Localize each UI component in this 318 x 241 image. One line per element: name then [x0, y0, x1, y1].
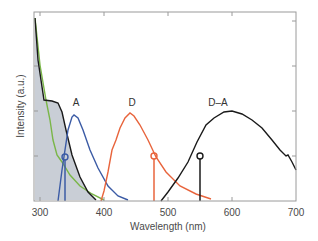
marker-da: [197, 153, 203, 201]
series-d-line: [101, 113, 211, 201]
series-label-da: D–A: [208, 97, 228, 108]
spectra-chart: 300 400 500 600 700 Wavelength (nm) Inte…: [0, 0, 318, 241]
x-axis-title: Wavelength (nm): [130, 221, 206, 232]
series-da-line: [161, 111, 296, 201]
y-axis-title: Intensity (a.u.): [15, 74, 26, 137]
x-tick-label: 500: [160, 207, 177, 218]
marker-d: [151, 153, 157, 201]
series-label-a: A: [73, 97, 80, 108]
y-ticks: [34, 21, 296, 156]
x-tick-label: 700: [288, 207, 305, 218]
series-label-d: D: [128, 97, 135, 108]
x-tick-label: 600: [224, 207, 241, 218]
x-tick-label: 300: [32, 207, 49, 218]
x-tick-label: 400: [96, 207, 113, 218]
